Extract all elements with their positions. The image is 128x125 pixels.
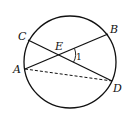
label-a: A [12, 63, 21, 76]
label-e: E [54, 40, 63, 53]
circle-chord-diagram: C B E A D 1 [0, 0, 128, 125]
label-b: B [109, 23, 118, 36]
label-c: C [18, 30, 27, 43]
angle-label-1: 1 [76, 52, 82, 62]
label-d: D [112, 82, 122, 95]
circle [24, 16, 116, 108]
chord-ab [25, 34, 108, 69]
